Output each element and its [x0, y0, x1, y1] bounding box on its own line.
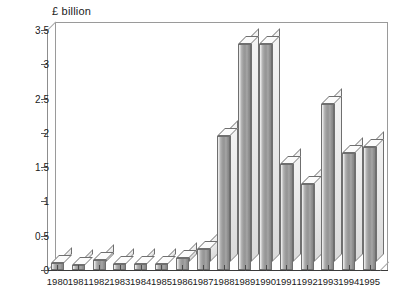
bar-front-face — [259, 44, 272, 270]
bar-top-face — [113, 256, 134, 264]
bar-side-face — [272, 28, 280, 262]
x-tick-mark — [286, 265, 287, 271]
x-axis-labels: 1980198119821983198419851986198719881989… — [47, 276, 388, 296]
bar-chart: £ billion 00.511.522.533.5 1980198119821… — [0, 0, 402, 303]
x-tick-mark — [307, 265, 308, 271]
bar-side-face — [376, 131, 384, 262]
plot-area — [47, 30, 380, 270]
x-tick-mark — [57, 265, 58, 271]
y-axis-title: £ billion — [52, 5, 91, 17]
y-tick-mark — [41, 270, 47, 271]
bar — [217, 136, 230, 270]
bar — [301, 184, 314, 270]
bar — [321, 104, 334, 270]
bar — [342, 153, 355, 270]
bar-front-face — [321, 104, 334, 270]
x-tick-mark — [328, 265, 329, 271]
x-tick-mark — [182, 265, 183, 271]
x-tick-mark — [78, 265, 79, 271]
x-tick-label: 1995 — [355, 276, 385, 287]
x-tick-mark — [99, 265, 100, 271]
bar-side-face — [355, 137, 363, 262]
bar-top-face — [51, 255, 72, 263]
bar-top-face — [72, 257, 93, 265]
bar-front-face — [342, 153, 355, 270]
bar — [238, 44, 251, 270]
bar-side-face — [251, 28, 259, 262]
x-tick-mark — [370, 265, 371, 271]
bar — [280, 164, 293, 270]
bar-front-face — [238, 44, 251, 270]
x-tick-mark — [245, 265, 246, 271]
bar-top-face — [155, 256, 176, 264]
x-tick-mark — [349, 265, 350, 271]
bar-front-face — [280, 164, 293, 270]
x-tick-mark — [266, 265, 267, 271]
x-tick-mark — [161, 265, 162, 271]
x-tick-mark — [120, 265, 121, 271]
x-tick-mark — [224, 265, 225, 271]
bar-top-face — [134, 256, 155, 264]
bar-front-face — [301, 184, 314, 270]
bar — [363, 147, 376, 270]
bar — [259, 44, 272, 270]
bar-front-face — [363, 147, 376, 270]
bar-front-face — [217, 136, 230, 270]
bar-side-face — [230, 120, 238, 262]
bar-side-face — [293, 148, 301, 262]
bar-side-face — [334, 88, 342, 262]
x-tick-mark — [141, 265, 142, 271]
x-tick-mark — [203, 265, 204, 271]
